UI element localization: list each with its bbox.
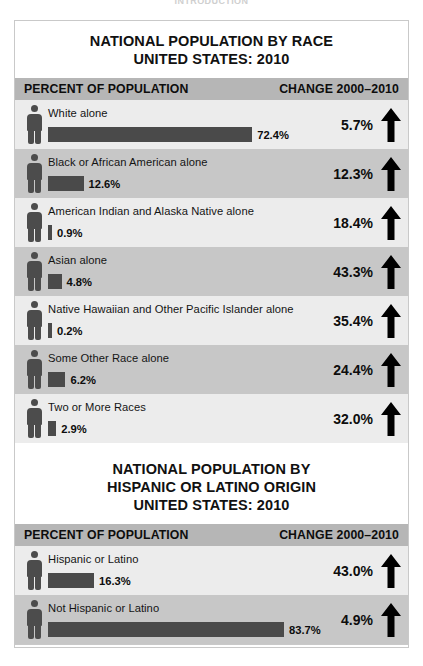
- person-head: [31, 301, 38, 308]
- table-row: Some Other Race alone6.2%24.4%: [15, 345, 408, 394]
- person-head: [31, 600, 38, 607]
- arrow-up-icon: [380, 304, 402, 338]
- person-legl: [28, 375, 34, 389]
- column-header-hispanic: PERCENT OF POPULATION CHANGE 2000–2010: [15, 524, 408, 546]
- section-title-race: NATIONAL POPULATION BY RACE UNITED STATE…: [15, 21, 408, 78]
- person-legr: [35, 277, 41, 291]
- percent-value: 72.4%: [257, 129, 289, 141]
- table-row: Asian alone4.8%43.3%: [15, 247, 408, 296]
- arrow-up-icon: [380, 353, 402, 387]
- person-pictogram: [26, 252, 43, 291]
- person-legl: [28, 228, 34, 242]
- person-legr: [35, 424, 41, 438]
- section-title-hispanic-line-3: UNITED STATES: 2010: [23, 496, 400, 514]
- change-cell: 12.3%: [316, 149, 408, 198]
- percent-bar-group: 0.2%: [48, 323, 83, 338]
- table-row: Native Hawaiian and Other Pacific Island…: [15, 296, 408, 345]
- person-torso: [27, 359, 42, 376]
- arrow-up-icon: [380, 157, 402, 191]
- row-content: Asian alone4.8%: [45, 247, 316, 296]
- section-title-race-line-2: UNITED STATES: 2010: [23, 50, 400, 68]
- person-legr: [35, 625, 41, 639]
- category-label: White alone: [48, 107, 108, 119]
- person-legr: [35, 130, 41, 144]
- person-head: [31, 105, 38, 112]
- percent-bar-group: 4.8%: [48, 274, 92, 289]
- percent-bar-group: 72.4%: [48, 127, 289, 142]
- person-torso: [27, 408, 42, 425]
- person-torso: [27, 560, 42, 577]
- person-legl: [28, 326, 34, 340]
- percent-bar-group: 2.9%: [48, 421, 87, 436]
- arrow-up-icon: [380, 206, 402, 240]
- person-pictogram: [26, 350, 43, 389]
- row-content: Two or More Races2.9%: [45, 394, 316, 443]
- change-cell: 43.3%: [316, 247, 408, 296]
- percent-bar-group: 6.2%: [48, 372, 96, 387]
- column-header-percent-hispanic: PERCENT OF POPULATION: [24, 528, 188, 542]
- person-icon: [15, 296, 45, 345]
- percent-bar: [48, 372, 65, 387]
- table-row: White alone72.4%5.7%: [15, 100, 408, 149]
- row-content: Black or African American alone12.6%: [45, 149, 316, 198]
- category-label: Not Hispanic or Latino: [48, 602, 159, 614]
- section-title-hispanic-line-1: NATIONAL POPULATION BY: [23, 460, 400, 478]
- percent-value: 0.9%: [57, 227, 83, 239]
- section-title-hispanic-line-2: HISPANIC OR LATINO ORIGIN: [23, 478, 400, 496]
- person-torso: [27, 310, 42, 327]
- person-legr: [35, 326, 41, 340]
- person-icon: [15, 345, 45, 394]
- percent-bar: [48, 274, 62, 289]
- table-row: Not Hispanic or Latino83.7%4.9%: [15, 595, 408, 644]
- person-icon: [15, 198, 45, 247]
- person-icon: [15, 595, 45, 644]
- category-label: American Indian and Alaska Native alone: [48, 205, 254, 217]
- percent-bar: [48, 622, 284, 637]
- column-header-percent-race: PERCENT OF POPULATION: [24, 82, 188, 96]
- section-title-race-line-1: NATIONAL POPULATION BY RACE: [23, 32, 400, 50]
- person-head: [31, 399, 38, 406]
- change-cell: 43.0%: [316, 546, 408, 595]
- row-content: White alone72.4%: [45, 100, 316, 149]
- category-label: Black or African American alone: [48, 156, 208, 168]
- person-head: [31, 551, 38, 558]
- person-legr: [35, 228, 41, 242]
- change-cell: 35.4%: [316, 296, 408, 345]
- table-row: Black or African American alone12.6%12.3…: [15, 149, 408, 198]
- person-legl: [28, 576, 34, 590]
- percent-bar-group: 16.3%: [48, 573, 131, 588]
- percent-value: 0.2%: [57, 325, 83, 337]
- change-cell: 5.7%: [316, 100, 408, 149]
- change-value: 43.0%: [333, 563, 373, 579]
- person-torso: [27, 609, 42, 626]
- percent-value: 6.2%: [70, 374, 96, 386]
- person-icon: [15, 546, 45, 595]
- row-content: Native Hawaiian and Other Pacific Island…: [45, 296, 316, 345]
- percent-value: 4.8%: [67, 276, 93, 288]
- person-torso: [27, 212, 42, 229]
- person-icon: [15, 247, 45, 296]
- infographic-page: INTRODUCTION NATIONAL POPULATION BY RACE…: [0, 0, 423, 666]
- row-content: Hispanic or Latino16.3%: [45, 546, 316, 595]
- person-icon: [15, 394, 45, 443]
- table-row: Two or More Races2.9%32.0%: [15, 394, 408, 443]
- arrow-up-icon: [380, 255, 402, 289]
- person-head: [31, 203, 38, 210]
- percent-bar-group: 12.6%: [48, 176, 120, 191]
- section-title-hispanic: NATIONAL POPULATION BY HISPANIC OR LATIN…: [15, 449, 408, 524]
- change-value: 43.3%: [333, 264, 373, 280]
- person-legl: [28, 179, 34, 193]
- change-cell: 24.4%: [316, 345, 408, 394]
- person-pictogram: [26, 301, 43, 340]
- person-legr: [35, 576, 41, 590]
- column-header-change-race: CHANGE 2000–2010: [279, 82, 399, 96]
- person-icon: [15, 149, 45, 198]
- person-legl: [28, 625, 34, 639]
- category-label: Asian alone: [48, 254, 107, 266]
- change-cell: 32.0%: [316, 394, 408, 443]
- person-pictogram: [26, 399, 43, 438]
- change-value: 4.9%: [341, 612, 373, 628]
- row-content: Some Other Race alone6.2%: [45, 345, 316, 394]
- percent-bar: [48, 323, 52, 338]
- category-label: Two or More Races: [48, 401, 146, 413]
